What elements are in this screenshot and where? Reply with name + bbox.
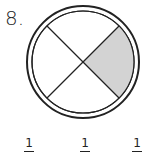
answer-choice-3: 1 — [130, 136, 144, 152]
fraction-bar — [80, 151, 90, 152]
numerator: 1 — [133, 136, 141, 150]
answer-choice-1: 1 — [22, 136, 36, 152]
answer-choice-2: 1 — [78, 136, 92, 152]
fraction-bar — [24, 151, 34, 152]
numerator: 1 — [81, 136, 89, 150]
fraction-circle — [0, 0, 147, 130]
numerator: 1 — [25, 136, 33, 150]
fraction-bar — [132, 151, 142, 152]
